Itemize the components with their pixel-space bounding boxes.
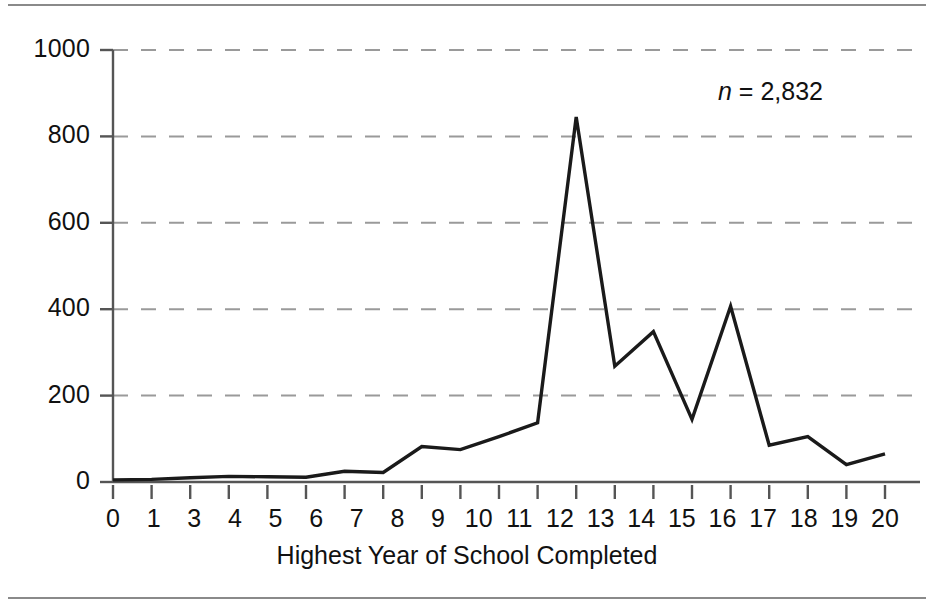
data-series-line (113, 117, 885, 480)
axes-group (113, 50, 920, 482)
x-tick-label-3: 3 (171, 504, 217, 533)
tick-marks-group (100, 50, 885, 499)
x-tick-label-11: 11 (496, 504, 542, 533)
x-tick-label-15: 15 (659, 504, 705, 533)
x-tick-label-16: 16 (699, 504, 745, 533)
x-tick-label-4: 4 (212, 504, 258, 533)
x-tick-label-12: 12 (537, 504, 583, 533)
figure-container: n = 2,832 02004006008001000 013456789101… (0, 0, 934, 607)
x-tick-label-0: 0 (90, 504, 136, 533)
x-tick-label-9: 9 (415, 504, 461, 533)
gridlines-group (113, 50, 920, 396)
x-tick-label-19: 19 (821, 504, 867, 533)
y-tick-label-800: 800 (4, 120, 90, 149)
x-tick-label-13: 13 (578, 504, 624, 533)
x-tick-label-7: 7 (334, 504, 380, 533)
x-tick-label-1: 1 (131, 504, 177, 533)
x-tick-label-14: 14 (618, 504, 664, 533)
x-tick-label-6: 6 (293, 504, 339, 533)
x-tick-label-8: 8 (374, 504, 420, 533)
y-tick-label-600: 600 (4, 207, 90, 236)
x-tick-label-10: 10 (456, 504, 502, 533)
x-axis-title: Highest Year of School Completed (0, 541, 934, 570)
y-tick-label-1000: 1000 (4, 34, 90, 63)
x-tick-label-5: 5 (253, 504, 299, 533)
x-tick-label-18: 18 (781, 504, 827, 533)
y-tick-label-400: 400 (4, 293, 90, 322)
x-tick-label-17: 17 (740, 504, 786, 533)
y-tick-label-0: 0 (4, 466, 90, 495)
x-tick-label-20: 20 (862, 504, 908, 533)
y-tick-label-200: 200 (4, 380, 90, 409)
